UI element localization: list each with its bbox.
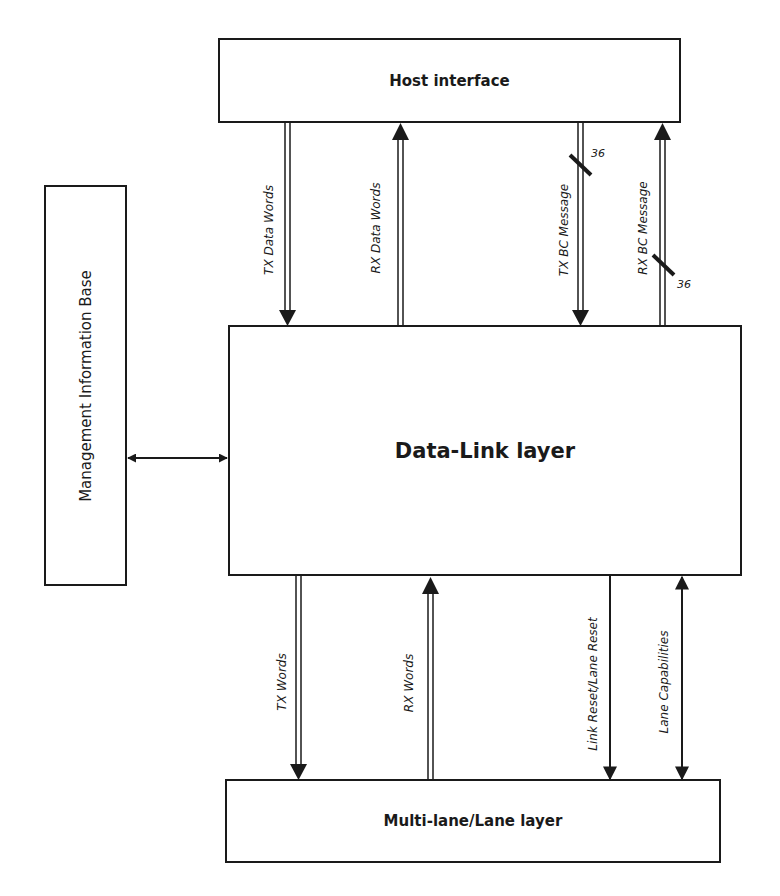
rx-words-label: RX Words [402, 654, 416, 712]
rx-data-words-arrow [392, 123, 409, 325]
tx-words-label: TX Words [275, 653, 289, 710]
tx-data-words-arrow [279, 123, 296, 326]
multi-lane-layer-block: Multi-lane/Lane layer [225, 779, 721, 863]
data-link-layer-block: Data-Link layer [228, 325, 742, 576]
mib-label: Management Information Base [77, 270, 95, 502]
bus-width-slash [570, 155, 591, 175]
tx-bc-message-label: TX BC Message [557, 184, 571, 276]
rx-bc-message-arrow [653, 123, 674, 325]
host-interface-label: Host interface [389, 72, 509, 90]
rx-bc-message-label: RX BC Message [636, 181, 650, 274]
tx-bc-bus-width: 36 [591, 147, 605, 160]
data-link-layer-label: Data-Link layer [395, 439, 575, 463]
rx-words-arrow [422, 577, 439, 779]
tx-bc-message-arrow [570, 123, 591, 326]
multi-lane-layer-label: Multi-lane/Lane layer [384, 812, 563, 830]
rx-bc-bus-width: 36 [677, 278, 691, 291]
link-reset-label: Link Reset/Lane Reset [586, 617, 600, 750]
management-information-base-block: Management Information Base [44, 185, 127, 586]
host-interface-block: Host interface [218, 38, 681, 123]
lane-capabilities-label: Lane Capabilities [657, 631, 671, 734]
rx-data-words-label: RX Data Words [369, 183, 383, 274]
tx-words-arrow [290, 576, 307, 780]
bus-width-slash [653, 255, 674, 275]
tx-data-words-label: TX Data Words [262, 185, 276, 275]
